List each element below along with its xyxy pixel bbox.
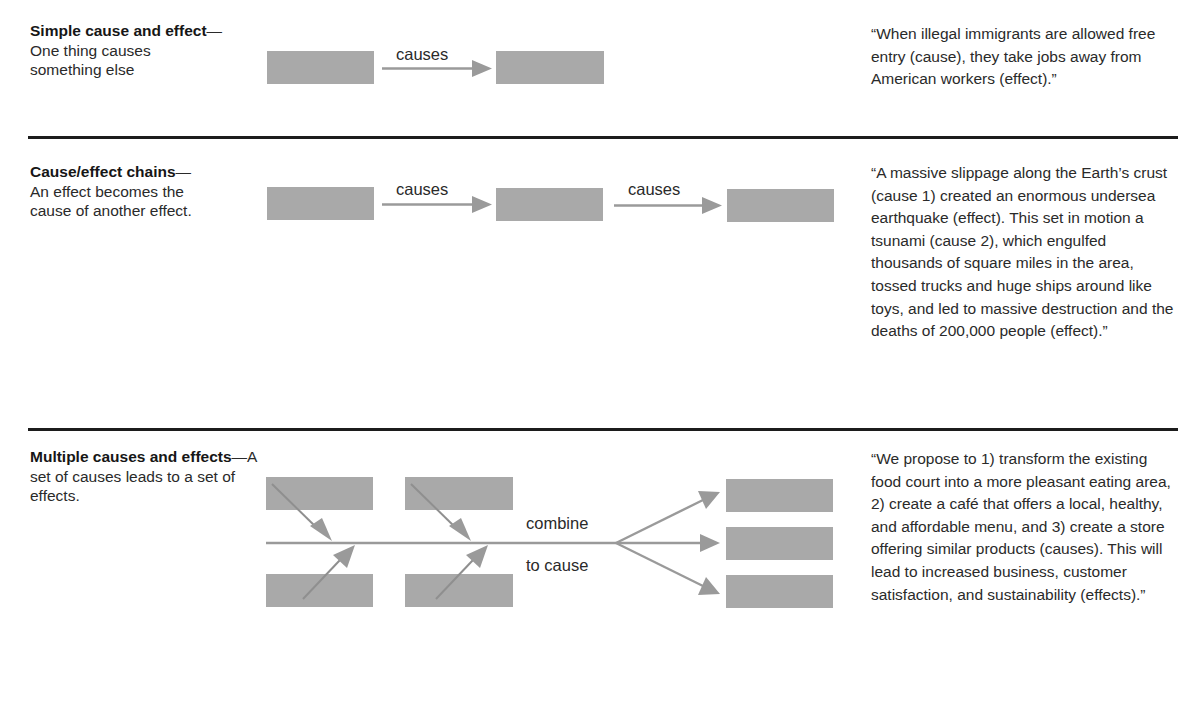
effect-box: [496, 51, 604, 84]
section-divider: [28, 136, 1178, 139]
section-cause-effect-chains: Cause/effect chains— An effect becomes t…: [0, 140, 1184, 430]
section-multiple-causes-effects: Multiple causes and effects—A set of cau…: [0, 432, 1184, 722]
example-quote: “A massive slippage along the Earth’s cr…: [871, 162, 1176, 343]
section-divider: [28, 428, 1178, 431]
example-quote: “We propose to 1) transform the existing…: [871, 448, 1176, 606]
section-simple-cause-effect: Simple cause and effect— One thing cause…: [0, 0, 1184, 140]
example-quote: “When illegal immigrants are allowed fre…: [871, 23, 1176, 91]
